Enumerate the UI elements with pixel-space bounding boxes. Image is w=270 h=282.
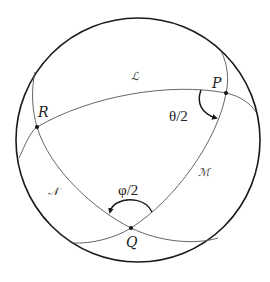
angle-arc-phi [110, 200, 152, 212]
sphere-outline [16, 18, 260, 262]
label-great-circle-L: ℒ [131, 70, 140, 83]
great-circle-M [72, 51, 228, 243]
label-great-circle-M: ℳ [198, 166, 212, 179]
label-angle-phi: φ/2 [118, 182, 138, 198]
great-circle-L [19, 89, 256, 158]
label-R: R [37, 104, 49, 120]
label-P: P [211, 75, 222, 91]
point-Q [129, 226, 133, 230]
spherical-triangle-diagram: P Q R ℒ ℳ 𝒩 θ/2 φ/2 [0, 0, 270, 282]
point-R [35, 125, 39, 129]
great-circle-N [33, 72, 218, 242]
point-P [224, 91, 228, 95]
label-angle-theta: θ/2 [169, 108, 188, 124]
label-great-circle-N: 𝒩 [48, 185, 62, 198]
label-Q: Q [126, 234, 138, 250]
angle-arc-theta [199, 90, 216, 118]
